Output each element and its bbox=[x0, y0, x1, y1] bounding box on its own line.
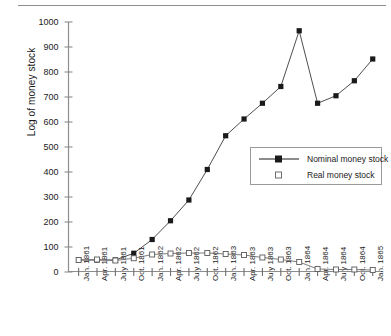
chart-figure: Log of money stock 010020030040050060070… bbox=[0, 0, 391, 336]
data-point-marker bbox=[223, 133, 228, 138]
data-point-marker bbox=[278, 257, 283, 262]
data-point-marker bbox=[370, 268, 375, 273]
data-point-marker bbox=[113, 258, 118, 263]
data-point-marker bbox=[297, 260, 302, 265]
data-point-marker bbox=[241, 116, 246, 121]
legend-marker-filled-square bbox=[257, 152, 301, 166]
data-point-marker bbox=[333, 93, 338, 98]
legend-item-nominal: Nominal money stock bbox=[251, 152, 383, 166]
data-point-marker bbox=[168, 218, 173, 223]
data-point-marker bbox=[150, 237, 155, 242]
data-point-marker bbox=[297, 28, 302, 33]
data-point-marker bbox=[333, 267, 338, 272]
data-point-marker bbox=[131, 251, 136, 256]
data-point-marker bbox=[186, 251, 191, 256]
data-point-marker bbox=[352, 267, 357, 272]
data-point-marker bbox=[205, 251, 210, 256]
data-point-marker bbox=[150, 252, 155, 257]
series-line bbox=[79, 31, 373, 260]
data-point-marker bbox=[76, 258, 81, 263]
data-series-nominal bbox=[76, 28, 375, 262]
legend-label-real: Real money stock bbox=[307, 168, 375, 182]
legend-label-nominal: Nominal money stock bbox=[307, 152, 388, 166]
data-point-marker bbox=[260, 101, 265, 106]
data-point-marker bbox=[168, 251, 173, 256]
data-point-marker bbox=[315, 267, 320, 272]
data-point-marker bbox=[315, 101, 320, 106]
data-point-marker bbox=[205, 167, 210, 172]
data-point-marker bbox=[94, 257, 99, 262]
legend-marker-open-square bbox=[257, 168, 301, 182]
data-point-marker bbox=[186, 197, 191, 202]
data-point-marker bbox=[370, 56, 375, 61]
data-point-marker bbox=[260, 255, 265, 260]
legend-item-real: Real money stock bbox=[251, 168, 383, 182]
data-point-marker bbox=[278, 84, 283, 89]
data-point-marker bbox=[223, 252, 228, 257]
data-point-marker bbox=[352, 78, 357, 83]
data-point-marker bbox=[242, 253, 247, 258]
data-point-marker bbox=[131, 256, 136, 261]
chart-legend: Nominal money stock Real money stock bbox=[250, 147, 382, 185]
